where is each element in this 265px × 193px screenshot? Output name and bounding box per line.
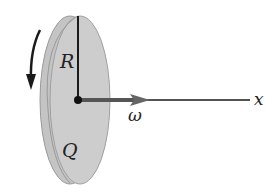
- radius-label: R: [59, 50, 74, 72]
- x-axis-label: x: [254, 89, 264, 109]
- diagram-canvas: R Q ω x: [0, 0, 265, 193]
- rotation-arrowhead-icon: [26, 74, 36, 90]
- rotation-arrow-icon: [31, 30, 40, 80]
- charge-label: Q: [62, 139, 78, 161]
- center-dot: [74, 96, 82, 104]
- omega-label: ω: [128, 105, 142, 125]
